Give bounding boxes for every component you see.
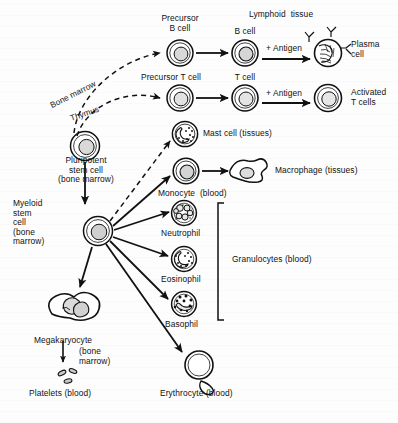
platelets-label: Platelets (blood) (29, 389, 91, 399)
platelets-glyph (57, 368, 77, 384)
arrow-pluripotent-to-precursor-b (74, 53, 160, 133)
antigen-t-label: + Antigen (266, 89, 302, 99)
antigen-b-label: + Antigen (266, 44, 302, 54)
t-cell-glyph (232, 85, 258, 111)
neutrophil-glyph (172, 201, 197, 226)
erythrocyte-label: Erythrocyte (blood) (160, 389, 233, 399)
granulocytes-label: Granulocytes (blood) (232, 255, 312, 265)
arrow-myeloid-to-megakaryocyte (80, 247, 92, 287)
t-cell-label: T cell (225, 73, 265, 83)
basophil-glyph (172, 292, 197, 317)
myeloid-stem-cell-label: Myeloid stem cell (bone marrow) (13, 199, 69, 247)
plasma-cell-label: Plasma cell (351, 40, 395, 59)
activated-t-cells-glyph (315, 85, 342, 112)
eosinophil-label: Eosinophil (161, 275, 201, 285)
arrow-myeloid-to-erythrocyte (106, 244, 182, 352)
megakaryocyte-glyph (49, 293, 100, 321)
eosinophil-glyph (172, 247, 197, 272)
monocyte-label: Monocyte (blood) (158, 189, 227, 199)
pluripotent-stem-cell-label: Pluripotent stem cell (bone marrow) (38, 156, 134, 185)
megakaryocyte-label: Megakaryocyte (34, 336, 92, 346)
macrophage-label: Macrophage (tissues) (275, 166, 358, 176)
granulocytes-bracket (218, 203, 224, 320)
mast-cell-label: Mast cell (tissues) (203, 129, 272, 139)
precursor-b-cell-glyph (167, 40, 193, 66)
macrophage-glyph (230, 159, 267, 182)
precursor-b-cell-label: Precursor B cell (148, 14, 212, 33)
precursor-t-cell-label: Precursor T cell (141, 73, 201, 83)
myeloid-stem-cell-glyph (84, 217, 113, 246)
mast-cell-glyph (172, 121, 197, 146)
lymphoid-tissue-label: Lymphoid tissue (249, 10, 313, 20)
b-cell-glyph (232, 40, 258, 66)
precursor-t-cell-glyph (167, 85, 193, 111)
b-cell-label: B cell (225, 27, 265, 37)
basophil-label: Basophil (165, 320, 198, 330)
plasma-cell-glyph (315, 40, 342, 67)
megakaryocyte-sublabel: (bone marrow) (79, 347, 110, 366)
monocyte-glyph (173, 158, 199, 184)
activated-t-cells-label: Activated T cells (351, 88, 398, 107)
neutrophil-label: Neutrophil (161, 229, 200, 239)
